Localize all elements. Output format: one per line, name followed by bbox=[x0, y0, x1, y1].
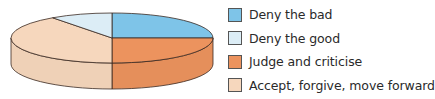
legend-item-deny-the-good: Deny the good bbox=[228, 27, 435, 51]
legend: Deny the bad Deny the good Judge and cri… bbox=[228, 3, 435, 97]
legend-swatch bbox=[228, 8, 242, 22]
legend-item-accept-forgive-move-forward: Accept, forgive, move forward bbox=[228, 74, 435, 98]
legend-swatch bbox=[228, 78, 242, 92]
legend-label: Deny the good bbox=[249, 31, 340, 46]
legend-swatch bbox=[228, 55, 242, 69]
legend-label: Judge and criticise bbox=[249, 54, 362, 69]
legend-item-judge-and-criticise: Judge and criticise bbox=[228, 50, 435, 74]
pie-chart bbox=[0, 0, 220, 99]
pie-slice-deny-the-bad bbox=[112, 13, 213, 38]
pie-slices bbox=[11, 13, 213, 89]
legend-label: Accept, forgive, move forward bbox=[249, 78, 435, 93]
legend-item-deny-the-bad: Deny the bad bbox=[228, 3, 435, 27]
legend-swatch bbox=[228, 31, 242, 45]
legend-label: Deny the bad bbox=[249, 7, 332, 22]
